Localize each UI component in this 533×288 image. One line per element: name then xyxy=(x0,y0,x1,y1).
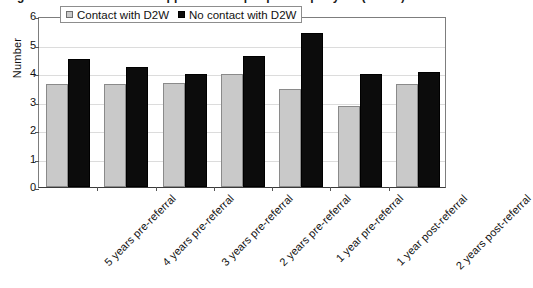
y-axis-tick-mark xyxy=(35,104,39,105)
bar-contact xyxy=(338,106,360,187)
bar-contact xyxy=(163,83,185,187)
x-axis-tick-mark xyxy=(156,187,157,191)
y-axis-tick-mark xyxy=(35,189,39,190)
bar-contact xyxy=(279,89,301,187)
x-axis-tick-mark xyxy=(272,187,273,191)
bar-no-contact xyxy=(301,33,323,187)
y-axis-tick-label: 2 xyxy=(14,124,36,136)
legend-label-no-contact: No contact with D2W xyxy=(189,9,296,21)
bar-no-contact xyxy=(360,74,382,187)
y-axis-tick-mark xyxy=(35,18,39,19)
y-axis-tick-label: 1 xyxy=(14,153,36,165)
bar-contact xyxy=(221,74,243,187)
legend-entry-contact: Contact with D2W xyxy=(66,9,169,21)
x-axis-tick-mark xyxy=(214,187,215,191)
y-axis-tick-mark xyxy=(35,47,39,48)
x-axis-tick-mark xyxy=(389,187,390,191)
legend-swatch-contact-icon xyxy=(66,11,73,18)
legend-entry-no-contact: No contact with D2W xyxy=(178,9,296,21)
bar-no-contact xyxy=(418,72,440,187)
y-axis-tick-mark xyxy=(35,75,39,76)
y-axis-tick-label: 5 xyxy=(14,39,36,51)
x-axis-tick-mark xyxy=(330,187,331,191)
y-axis-label: Number xyxy=(11,23,23,93)
x-axis-category-label: 1 year post-referral xyxy=(393,192,469,268)
y-axis-tick-mark xyxy=(35,132,39,133)
bar-contact xyxy=(46,84,68,187)
bar-no-contact xyxy=(68,59,90,187)
y-axis-tick-mark xyxy=(35,161,39,162)
y-axis-tick-label: 3 xyxy=(14,96,36,108)
legend-label-contact: Contact with D2W xyxy=(77,9,169,21)
bar-no-contact xyxy=(243,56,265,187)
legend-swatch-no-contact-icon xyxy=(178,11,185,18)
y-axis-tick-label: 4 xyxy=(14,67,36,79)
bar-no-contact xyxy=(126,67,148,187)
y-axis-tick-label: 0 xyxy=(14,181,36,193)
figure-title: Figure 3: Mean number of appointments pe… xyxy=(6,0,405,3)
bar-no-contact xyxy=(185,74,207,187)
chart-legend: Contact with D2W No contact with D2W xyxy=(60,6,302,23)
bar-series-group xyxy=(39,18,445,187)
plot-area xyxy=(38,17,446,188)
bar-contact xyxy=(396,84,418,187)
y-axis-tick-label: 6 xyxy=(14,10,36,22)
bar-contact xyxy=(104,84,126,187)
x-axis-tick-mark xyxy=(97,187,98,191)
